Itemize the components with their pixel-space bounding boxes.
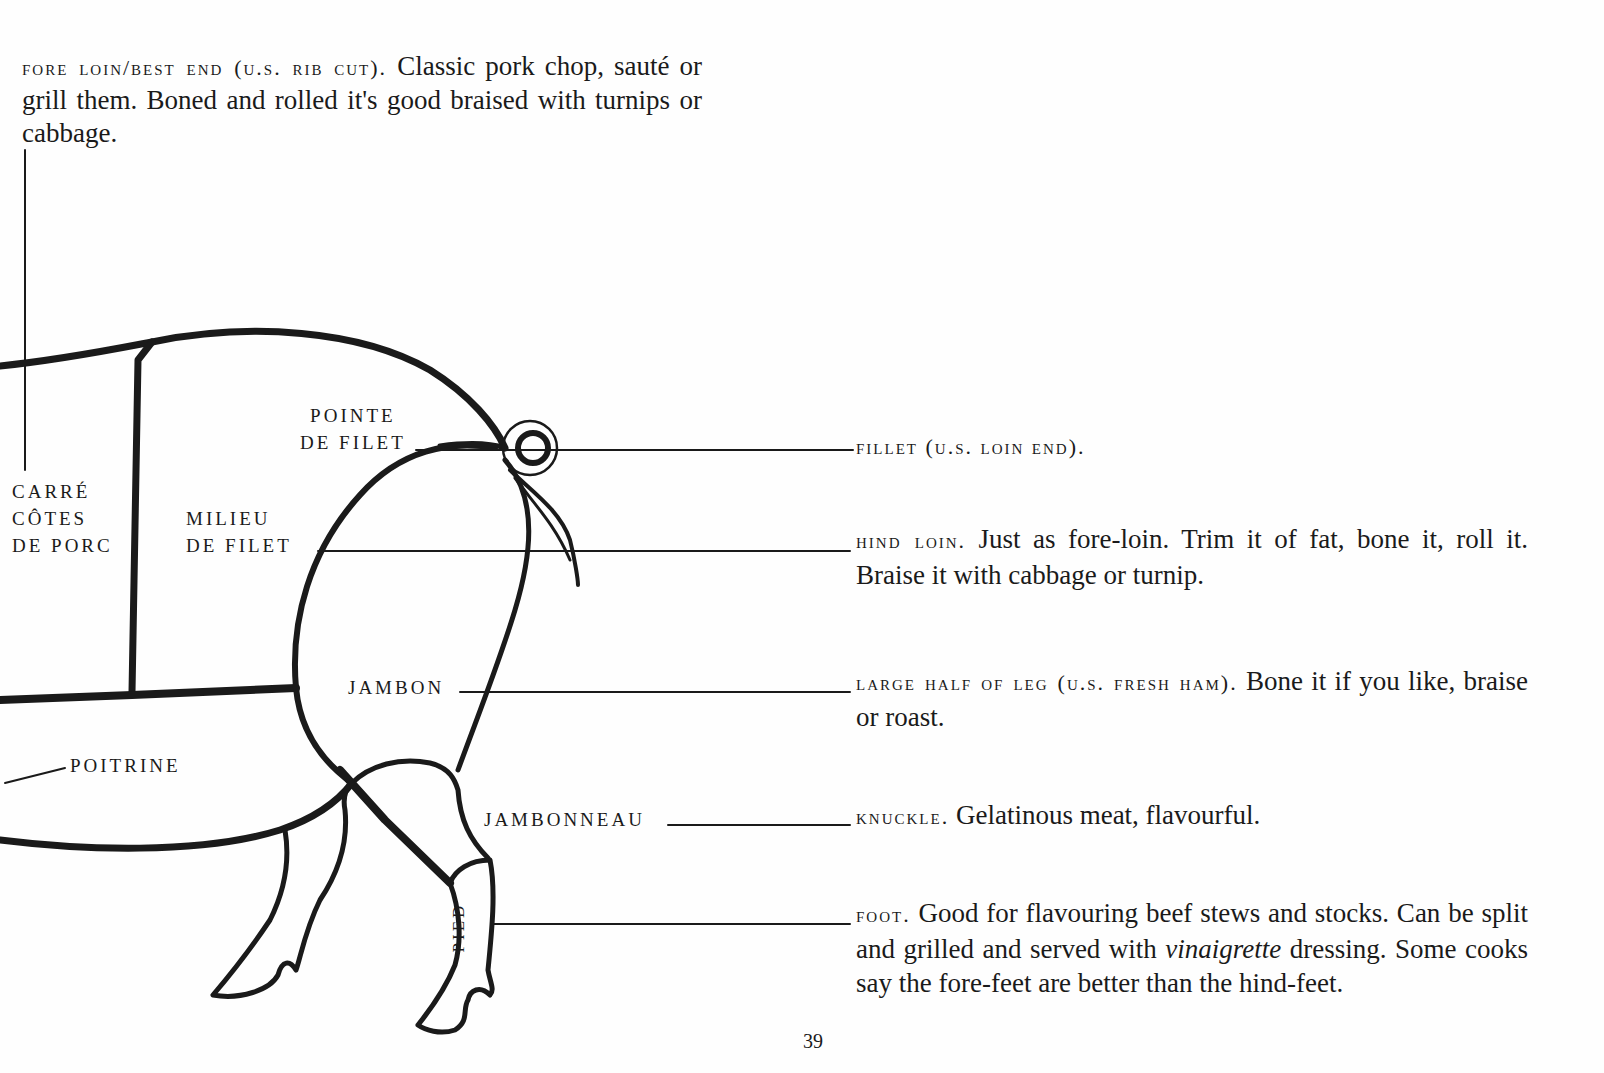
label-milieu-line1: MILIEU [186, 505, 292, 532]
left-leg [213, 783, 352, 996]
desc-knuckle: KNUCKLE. Gelatinous meat, flavourful. [856, 798, 1528, 834]
desc-knuckle-text: Gelatinous meat, flavourful. [956, 800, 1260, 830]
label-milieu-de-filet: MILIEU DE FILET [186, 505, 292, 559]
label-pointe-line2: DE FILET [300, 429, 406, 456]
desc-knuckle-heading: KNUCKLE. [856, 804, 949, 829]
desc-foot: FOOT. Good for flavouring beef stews and… [856, 896, 1528, 1000]
page-number: 39 [803, 1030, 823, 1053]
belly-divider [0, 688, 296, 700]
fore-loin-note: FORE LOIN/BEST END (U.S. RIB CUT). Class… [22, 50, 702, 150]
desc-hind-loin-heading: HIND LOIN. [856, 528, 966, 553]
desc-hind-loin: HIND LOIN. Just as fore-loin. Trim it of… [856, 522, 1528, 592]
label-pointe-line1: POINTE [300, 402, 406, 429]
label-jambon: JAMBON [348, 674, 444, 701]
desc-fillet: FILLET (U.S. LOIN END). [856, 428, 1528, 464]
belly-bottom [0, 783, 352, 848]
rib-divider [132, 342, 152, 692]
desc-fillet-heading: FILLET (U.S. LOIN END). [856, 434, 1085, 459]
back-outline [0, 331, 505, 448]
fore-loin-heading: FORE LOIN/BEST END (U.S. RIB CUT). [22, 55, 387, 80]
label-pied: PIED [445, 903, 472, 953]
label-poitrine: POITRINE [70, 752, 181, 779]
desc-foot-italic: vinaigrette [1165, 934, 1281, 964]
label-milieu-line2: DE FILET [186, 532, 292, 559]
label-pointe-de-filet: POINTE DE FILET [300, 402, 406, 456]
label-carre-line3: DE PORC [12, 532, 113, 559]
label-jambonneau: JAMBONNEAU [484, 806, 645, 833]
label-carre: CARRÉ CÔTES DE PORC [12, 478, 113, 559]
label-carre-line2: CÔTES [12, 505, 113, 532]
desc-large-half-of-leg: LARGE HALF OF LEG (U.S. FRESH HAM). Bone… [856, 664, 1528, 734]
ham-rear [458, 460, 529, 770]
label-carre-line1: CARRÉ [12, 478, 113, 505]
desc-foot-heading: FOOT. [856, 902, 911, 927]
leader-line-poitrine [5, 768, 65, 783]
desc-leg-heading: LARGE HALF OF LEG (U.S. FRESH HAM). [856, 670, 1238, 695]
hock-cut [340, 770, 450, 883]
ham-outline [295, 445, 495, 783]
